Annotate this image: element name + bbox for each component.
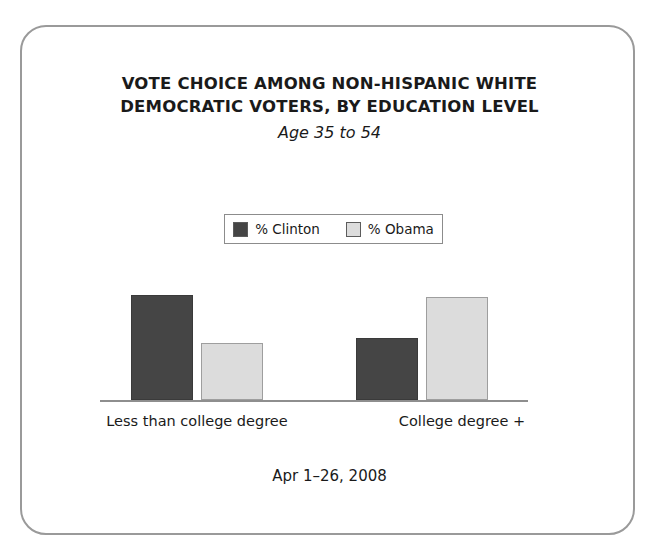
bar-clinton-0	[131, 295, 193, 400]
chart-footnote: Apr 1–26, 2008	[22, 467, 637, 485]
bar-group-less-than-college: 59 32	[127, 27, 267, 400]
x-axis-label-less-than-college: Less than college degree	[77, 413, 317, 429]
chart-frame: VOTE CHOICE AMONG NON-HISPANIC WHITE DEM…	[20, 25, 635, 535]
x-axis-baseline	[100, 400, 528, 402]
chart-plot-area: 59 32 35 58 Less than college degree Col…	[22, 27, 637, 537]
bar-obama-0	[201, 343, 263, 400]
bar-obama-1	[426, 297, 488, 400]
bar-group-college-degree: 35 58	[352, 27, 492, 400]
x-axis-label-college-degree: College degree +	[342, 413, 582, 429]
bar-clinton-1	[356, 338, 418, 400]
